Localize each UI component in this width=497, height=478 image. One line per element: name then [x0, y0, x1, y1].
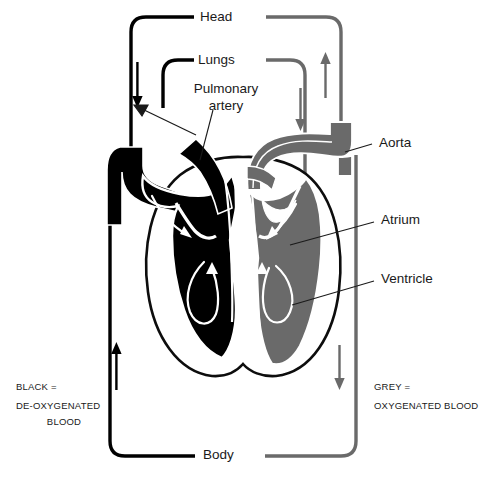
label-ventricle: Ventricle [381, 271, 433, 287]
legend-grey-line2: OXYGENATED BLOOD [374, 401, 478, 412]
label-aorta: Aorta [379, 135, 411, 151]
arrow-shaft-head-up [324, 60, 326, 98]
heart-circulation-diagram: Head Lungs Pulmonary artery Aorta Atrium… [0, 0, 497, 478]
arrow-shaft-lungs-down [299, 88, 301, 124]
label-lungs: Lungs [198, 52, 235, 68]
legend-black-line2: DE-OXYGENATED [16, 401, 100, 412]
arrow-shaft-body-up [115, 352, 117, 390]
legend-grey-title: GREY = [374, 382, 410, 393]
arrow-head-body-up [111, 342, 121, 354]
arrow-head-body-down [334, 378, 344, 390]
legend-black-line3: BLOOD [16, 417, 112, 428]
legend-black-title: BLACK = [16, 382, 57, 393]
label-pulmonary-artery-line1: Pulmonary [173, 81, 279, 97]
label-head: Head [200, 9, 232, 25]
label-body: Body [203, 447, 234, 463]
arrow-shaft-body-down [338, 345, 340, 383]
arrow-head-head-up [320, 52, 330, 64]
arrow-shaft-head-down [136, 62, 138, 100]
label-atrium: Atrium [381, 212, 420, 228]
label-pulmonary-artery-line2: artery [173, 98, 279, 114]
